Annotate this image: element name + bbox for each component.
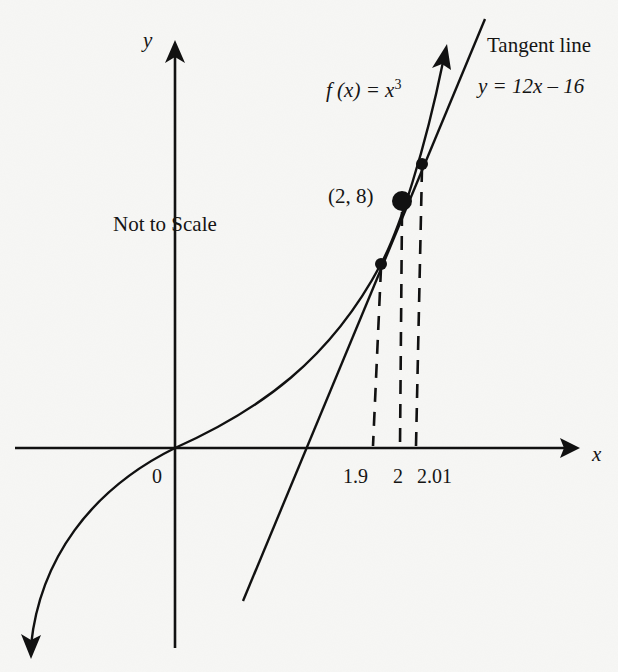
tangent-line-equation: y = 12x – 16 [478,76,584,97]
x-tick-1-9: 1.9 [343,466,368,486]
not-to-scale-note: Not to Scale [113,214,217,235]
point-of-tangency [392,191,412,211]
x-tick-2: 2 [393,466,403,486]
tangent-line-title: Tangent line [487,35,591,56]
tangent-line-diagram [0,0,618,672]
curve-label: f (x) = x3 [326,78,401,101]
point-of-tangency-label: (2, 8) [328,186,374,207]
point-2-01 [416,158,428,170]
x-tick-2-01: 2.01 [417,466,452,486]
y-axis-label: y [143,30,152,51]
curve-label-text: f (x) = x [326,78,394,102]
point-1-9 [375,258,387,270]
origin-label: 0 [152,466,162,486]
x-axis-label: x [592,444,601,465]
curve-label-exponent: 3 [394,77,401,92]
paper-texture [0,0,618,672]
